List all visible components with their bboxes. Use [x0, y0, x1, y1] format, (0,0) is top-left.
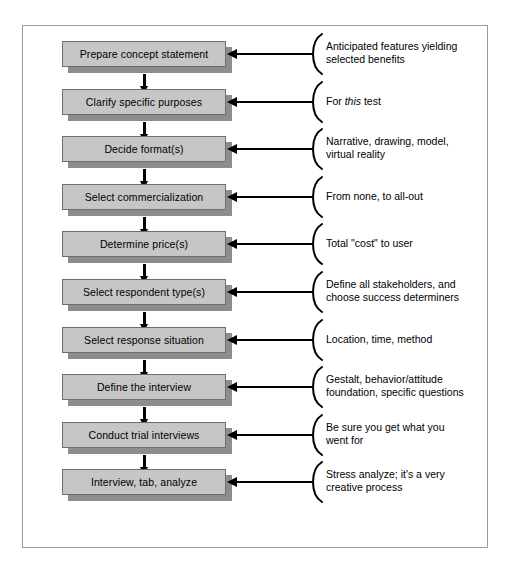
- flow-step-8: Define the interview: [62, 374, 226, 400]
- annotation-leader-line: [236, 101, 312, 103]
- curly-brace-icon: [310, 222, 324, 266]
- annotation-text-6: Define all stakeholders, andchoose succe…: [326, 278, 482, 304]
- annotation-leader-line: [236, 434, 312, 436]
- annotation-text-3: Narrative, drawing, model,virtual realit…: [326, 135, 482, 161]
- annotation-text-4: From none, to all-out: [326, 190, 482, 203]
- flow-step-box: Prepare concept statement: [62, 41, 226, 67]
- flow-step-label: Interview, tab, analyze: [91, 477, 197, 488]
- curly-brace-icon: [310, 460, 324, 504]
- curly-brace-icon: [310, 32, 324, 76]
- flow-step-label: Select respondent type(s): [83, 287, 205, 298]
- annotation-line-1: Be sure you get what you: [326, 421, 445, 433]
- annotation-text-10: Stress analyze; it's a verycreative proc…: [326, 468, 482, 494]
- flow-step-5: Determine price(s): [62, 231, 226, 257]
- annotation-text-1: Anticipated features yieldingselected be…: [326, 40, 482, 66]
- annotation-line-2: virtual reality: [326, 148, 482, 161]
- annotation-line-1: Stress analyze; it's a very: [326, 468, 445, 480]
- annotation-line-1: Location, time, method: [326, 333, 432, 345]
- flowchart-diagram: Prepare concept statementClarify specifi…: [0, 0, 512, 572]
- annotation-leader-line: [236, 291, 312, 293]
- flow-step-box: Select commercialization: [62, 184, 226, 210]
- annotation-leader-line: [236, 386, 312, 388]
- flow-step-box: Interview, tab, analyze: [62, 469, 226, 495]
- flow-step-label: Prepare concept statement: [80, 49, 209, 60]
- annotation-text-8: Gestalt, behavior/attitudefoundation, sp…: [326, 373, 482, 399]
- annotation-line-1: Narrative, drawing, model,: [326, 135, 449, 147]
- flow-step-label: Decide format(s): [104, 144, 183, 155]
- annotation-leader-line: [236, 481, 312, 483]
- annotation-line-1: Define all stakeholders, and: [326, 278, 456, 290]
- flow-step-label: Clarify specific purposes: [86, 97, 202, 108]
- flow-step-box: Decide format(s): [62, 136, 226, 162]
- flow-step-box: Determine price(s): [62, 231, 226, 257]
- flow-step-label: Select response situation: [84, 335, 204, 346]
- flow-step-box: Select respondent type(s): [62, 279, 226, 305]
- flow-step-4: Select commercialization: [62, 184, 226, 210]
- curly-brace-icon: [310, 413, 324, 457]
- annotation-leader-line: [236, 196, 312, 198]
- curly-brace-icon: [310, 80, 324, 124]
- flow-step-10: Interview, tab, analyze: [62, 469, 226, 495]
- annotation-line-1: From none, to all-out: [326, 190, 423, 202]
- curly-brace-icon: [310, 127, 324, 171]
- annotation-text-9: Be sure you get what youwent for: [326, 421, 482, 447]
- flow-step-label: Determine price(s): [100, 239, 188, 250]
- annotation-line-1: Gestalt, behavior/attitude: [326, 373, 443, 385]
- curly-brace-icon: [310, 270, 324, 314]
- annotation-text-7: Location, time, method: [326, 333, 482, 346]
- annotation-line-1: Total "cost" to user: [326, 237, 413, 249]
- annotation-text-2: For this test: [326, 95, 482, 108]
- flow-step-3: Decide format(s): [62, 136, 226, 162]
- annotation-line-2: foundation, specific questions: [326, 386, 482, 399]
- annotation-line-1: Anticipated features yielding: [326, 40, 457, 52]
- annotation-emphasis: this: [345, 95, 361, 107]
- annotation-leader-line: [236, 339, 312, 341]
- flow-step-label: Select commercialization: [85, 192, 204, 203]
- flow-step-9: Conduct trial interviews: [62, 422, 226, 448]
- curly-brace-icon: [310, 175, 324, 219]
- flow-step-box: Define the interview: [62, 374, 226, 400]
- annotation-text-5: Total "cost" to user: [326, 237, 482, 250]
- flow-step-label: Define the interview: [97, 382, 191, 393]
- flow-step-1: Prepare concept statement: [62, 41, 226, 67]
- annotation-leader-line: [236, 148, 312, 150]
- curly-brace-icon: [310, 318, 324, 362]
- annotation-line-2: choose success determiners: [326, 291, 482, 304]
- flow-step-2: Clarify specific purposes: [62, 89, 226, 115]
- annotation-leader-line: [236, 243, 312, 245]
- flow-step-6: Select respondent type(s): [62, 279, 226, 305]
- flow-step-box: Clarify specific purposes: [62, 89, 226, 115]
- annotation-line-2: went for: [326, 434, 482, 447]
- flow-step-7: Select response situation: [62, 327, 226, 353]
- flow-step-box: Select response situation: [62, 327, 226, 353]
- annotation-line-1: For this test: [326, 95, 381, 107]
- curly-brace-icon: [310, 365, 324, 409]
- annotation-line-2: selected benefits: [326, 53, 482, 66]
- annotation-line-2: creative process: [326, 481, 482, 494]
- annotation-leader-line: [236, 53, 312, 55]
- flow-step-label: Conduct trial interviews: [89, 430, 200, 441]
- flow-step-box: Conduct trial interviews: [62, 422, 226, 448]
